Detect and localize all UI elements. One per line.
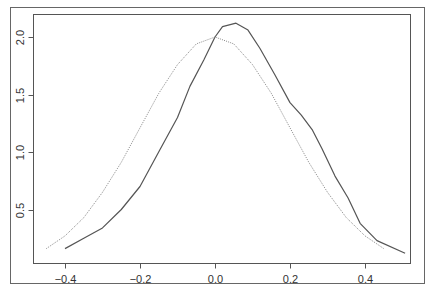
y-tick-label: 0.5 — [14, 203, 26, 218]
series-solid-empirical — [65, 23, 405, 253]
y-tick-label: 1.0 — [14, 145, 26, 160]
series-dotted-normal — [46, 37, 384, 249]
series-layer — [46, 23, 405, 253]
y-tick-label: 2.0 — [14, 30, 26, 45]
y-axis: 0.51.01.52.0 — [14, 30, 34, 218]
x-tick-label: 0.0 — [208, 273, 223, 285]
x-tick-label: 0.2 — [283, 273, 298, 285]
plot-box — [34, 15, 411, 264]
y-tick-label: 1.5 — [14, 88, 26, 103]
outer-frame — [11, 8, 425, 284]
x-tick-label: 0.4 — [358, 273, 373, 285]
x-tick-label: −0.4 — [55, 273, 77, 285]
density-chart: −0.4−0.20.00.20.4 0.51.01.52.0 — [0, 0, 432, 296]
x-tick-label: −0.2 — [130, 273, 152, 285]
x-axis: −0.4−0.20.00.20.4 — [55, 264, 374, 285]
